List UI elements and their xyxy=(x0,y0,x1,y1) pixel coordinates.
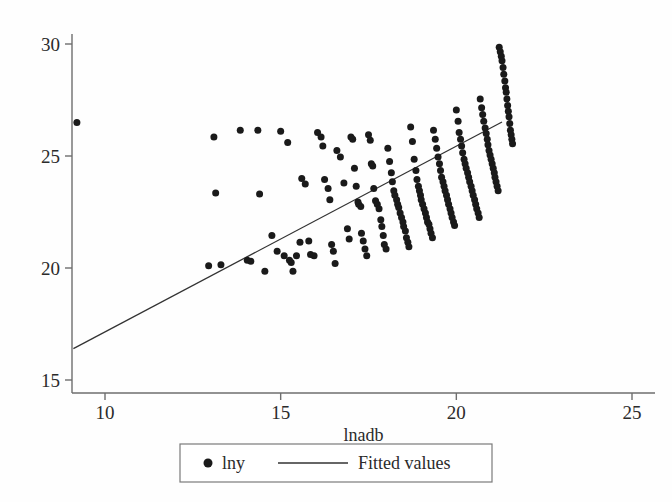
data-points-group xyxy=(73,44,516,275)
data-point xyxy=(407,123,414,130)
data-point xyxy=(433,145,440,152)
data-point xyxy=(247,258,254,265)
data-point xyxy=(413,176,420,183)
data-point xyxy=(386,158,393,165)
data-point xyxy=(430,127,437,134)
data-point xyxy=(499,57,506,64)
data-point xyxy=(458,142,465,149)
data-point xyxy=(388,169,395,176)
data-point xyxy=(284,139,291,146)
data-point xyxy=(357,203,364,210)
data-point xyxy=(326,196,333,203)
x-tick-label: 20 xyxy=(447,402,466,423)
data-point xyxy=(389,178,396,185)
data-point xyxy=(453,107,460,114)
data-point xyxy=(503,89,510,96)
legend-label-fitted-values: Fitted values xyxy=(358,453,451,473)
data-point xyxy=(73,119,80,126)
data-point xyxy=(501,77,508,84)
data-point xyxy=(476,214,483,221)
y-tick-label: 25 xyxy=(41,146,60,167)
data-point xyxy=(254,127,261,134)
data-point xyxy=(480,118,487,125)
data-point xyxy=(380,232,387,239)
data-point xyxy=(333,147,340,154)
data-point xyxy=(369,163,376,170)
data-point xyxy=(353,183,360,190)
x-axis-title: lnadb xyxy=(344,425,384,445)
y-tick-label: 30 xyxy=(41,34,60,55)
data-point xyxy=(351,165,358,172)
data-point xyxy=(321,176,328,183)
data-point xyxy=(370,185,377,192)
data-point xyxy=(451,222,458,229)
data-point xyxy=(429,234,436,241)
data-point xyxy=(277,128,284,135)
data-point xyxy=(212,189,219,196)
plot-canvas: 1520253010152025lnadb lnyFitted values xyxy=(0,0,672,502)
data-point xyxy=(361,245,368,252)
data-point xyxy=(261,268,268,275)
data-point xyxy=(478,104,485,111)
data-point xyxy=(437,167,444,174)
data-point xyxy=(506,113,513,120)
data-point xyxy=(293,252,300,259)
data-point xyxy=(302,181,309,188)
data-point xyxy=(274,248,281,255)
data-point xyxy=(405,243,412,250)
scatter-plot-figure: 1520253010152025lnadb lnyFitted values xyxy=(0,0,672,502)
data-point xyxy=(506,120,513,127)
data-point xyxy=(409,138,416,145)
y-tick-label: 15 xyxy=(41,370,60,391)
data-point xyxy=(384,145,391,152)
data-point xyxy=(503,95,510,102)
data-point xyxy=(455,118,462,125)
axis-group xyxy=(65,34,655,400)
data-point xyxy=(412,167,419,174)
data-point xyxy=(346,235,353,242)
data-point xyxy=(237,127,244,134)
data-point xyxy=(378,223,385,230)
data-point xyxy=(457,136,464,143)
data-point xyxy=(456,129,463,136)
y-tick-label: 20 xyxy=(41,258,60,279)
x-tick-label: 10 xyxy=(96,402,115,423)
x-tick-label: 25 xyxy=(623,402,642,423)
x-tick-label: 15 xyxy=(271,402,290,423)
data-point xyxy=(328,241,335,248)
data-point xyxy=(332,260,339,267)
data-point xyxy=(256,191,263,198)
data-point xyxy=(436,160,443,167)
data-point xyxy=(459,149,466,156)
data-point xyxy=(318,133,325,140)
data-point xyxy=(305,238,312,245)
data-point xyxy=(479,111,486,118)
data-point xyxy=(288,259,295,266)
data-point xyxy=(477,95,484,102)
data-point xyxy=(376,205,383,212)
data-point xyxy=(358,230,365,237)
data-point xyxy=(495,187,502,194)
data-point xyxy=(367,137,374,144)
data-point xyxy=(363,252,370,259)
data-point xyxy=(311,252,318,259)
data-point xyxy=(268,232,275,239)
data-point xyxy=(289,268,296,275)
data-point xyxy=(360,238,367,245)
data-point xyxy=(411,156,418,163)
data-point xyxy=(325,185,332,192)
data-point xyxy=(340,179,347,186)
data-point xyxy=(377,216,384,223)
data-point xyxy=(402,228,409,235)
data-point xyxy=(500,64,507,71)
data-point xyxy=(435,154,442,161)
data-point xyxy=(330,248,337,255)
data-point xyxy=(205,262,212,269)
data-point xyxy=(344,225,351,232)
chart-legend[interactable]: lnyFitted values xyxy=(180,444,492,482)
legend-label-lny: lny xyxy=(222,453,245,473)
data-point xyxy=(432,136,439,143)
data-point xyxy=(383,245,390,252)
data-point xyxy=(509,140,516,147)
data-point xyxy=(296,239,303,246)
